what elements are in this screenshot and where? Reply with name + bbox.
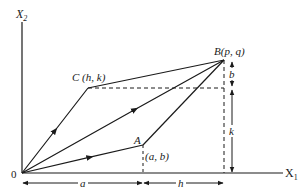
y-axis-label: X2 bbox=[15, 7, 27, 23]
point-c-label: C (h, k) bbox=[72, 71, 106, 84]
origin-label: 0 bbox=[11, 168, 17, 180]
point-a-coords: (a, b) bbox=[145, 150, 169, 163]
side-c-to-b bbox=[88, 60, 224, 88]
diagram-svg: X2 X1 0 C (h, k) B(p, q) A (a, b) a h b … bbox=[0, 0, 308, 196]
dimension-b-label: b bbox=[229, 68, 235, 80]
point-b-label: B(p, q) bbox=[214, 45, 245, 58]
side-a-to-b bbox=[143, 60, 224, 145]
parallelogram-vector-diagram: X2 X1 0 C (h, k) B(p, q) A (a, b) a h b … bbox=[0, 0, 308, 196]
x-axis-label: X1 bbox=[285, 166, 298, 182]
dimension-a-label: a bbox=[80, 177, 86, 189]
dimension-h-label: h bbox=[178, 177, 184, 189]
diagonal-o-to-b bbox=[22, 60, 224, 173]
point-a-label: A bbox=[133, 134, 141, 146]
